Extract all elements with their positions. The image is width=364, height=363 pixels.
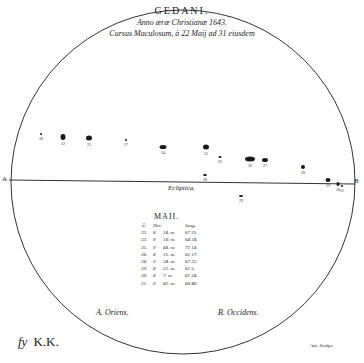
- sunspot: [86, 136, 92, 141]
- signature-initials: K.K.: [33, 334, 58, 349]
- sunspot-date-label: 28: [301, 170, 305, 175]
- sunspot-date-label: 31: [340, 188, 344, 193]
- table-row: 30.87. m.62 24.: [141, 272, 201, 279]
- sunspot-date-label: 27: [263, 163, 267, 168]
- cell: 65 17.: [185, 251, 201, 258]
- sunspot-labels: 282223272425262627282930282931: [39, 136, 344, 204]
- cell: 64 34.: [185, 236, 201, 243]
- cell: 24. m.: [163, 229, 185, 236]
- sunspot-date-label: 22: [61, 141, 65, 146]
- cell: 9: [153, 236, 163, 243]
- cell: 62 5.: [185, 265, 201, 272]
- sunspot: [61, 134, 66, 140]
- table-row: 29.822. m.62 5.: [141, 265, 201, 272]
- engraver-credit: Aut. Sculps.: [310, 343, 334, 348]
- cell: 26.: [141, 251, 153, 258]
- title-year: Anno æræ Christianæ 1643.: [0, 18, 364, 27]
- cell: 22. m.: [163, 265, 185, 272]
- column-header-minutes: [163, 222, 185, 229]
- cell: 9: [153, 244, 163, 251]
- sunspot: [219, 156, 222, 158]
- ecliptic-label: Ecliptica.: [168, 184, 195, 192]
- sunspot: [337, 182, 340, 186]
- cell: 15. m.: [163, 251, 185, 258]
- cell: 72 14.: [185, 244, 201, 251]
- title-course: Cursus Maculosum, à 22 Maij ad 31 eiusde…: [0, 29, 364, 38]
- cell: 10. m.: [163, 236, 185, 243]
- title-city: GEDANI.: [0, 5, 364, 16]
- cell: 8: [153, 229, 163, 236]
- sunspot-date-label: 29: [326, 183, 330, 188]
- sunspot: [245, 157, 255, 162]
- cell: 22.: [141, 229, 153, 236]
- sunspot: [239, 195, 243, 197]
- cell: 23.: [141, 236, 153, 243]
- column-header-hour: Hor.: [153, 222, 163, 229]
- sunspot: [301, 165, 305, 169]
- cell: 42. m.: [163, 280, 185, 287]
- table-row: 28.924. m.67 22.: [141, 258, 201, 265]
- cell: 9: [153, 258, 163, 265]
- legend-oriens: A. Oriens.: [96, 308, 129, 317]
- sunspot: [203, 145, 209, 150]
- sunspot-date-label: 25: [204, 151, 208, 156]
- cell: 30.: [141, 272, 153, 279]
- table-heading: MAII.: [154, 212, 179, 221]
- cell: 67 22.: [185, 258, 201, 265]
- sun-symbol-icon: ☉: [141, 222, 153, 229]
- sunspot-date-label: 28: [39, 136, 43, 141]
- sunspot-date-label: 27: [124, 142, 128, 147]
- solar-disc-diagram: 282223272425262627282930282931: [0, 0, 364, 363]
- cell: 67 25.: [185, 229, 201, 236]
- table-row: 26.815. m.65 17.: [141, 251, 201, 258]
- cell: 8: [153, 265, 163, 272]
- table-row: 31.942. m.60 40.: [141, 280, 201, 287]
- sunspot: [262, 158, 268, 162]
- sunspot-date-label: 26: [218, 159, 222, 164]
- cell: 24. m.: [163, 258, 185, 265]
- sunspot-date-label: 23: [87, 142, 91, 147]
- sunspot-date-label: 29: [239, 198, 243, 203]
- cell: 8: [153, 251, 163, 258]
- signature: fyK.K.: [18, 334, 59, 350]
- table-row: 25.944. m.72 14.: [141, 244, 201, 251]
- observation-table: ☉ Hor. Sexg. 22.824. m.67 25. 23.910. m.…: [141, 222, 201, 287]
- cell: 29.: [141, 265, 153, 272]
- sunspot: [326, 178, 331, 182]
- sunspot-date-label: 26: [248, 163, 252, 168]
- sunspot-date-label: 24: [161, 150, 165, 155]
- cell: 25.: [141, 244, 153, 251]
- column-header-sexg: Sexg.: [185, 222, 201, 229]
- cell: 62 24.: [185, 272, 201, 279]
- cell: 44. m.: [163, 244, 185, 251]
- table-row: 22.824. m.67 25.: [141, 229, 201, 236]
- signature-fy: fy: [18, 334, 27, 349]
- cell: 60 40.: [185, 280, 201, 287]
- cell: 7. m.: [163, 272, 185, 279]
- cell: 28.: [141, 258, 153, 265]
- cell: 8: [153, 272, 163, 279]
- cell: 9: [153, 280, 163, 287]
- sunspot: [203, 174, 207, 176]
- point-b-label: B: [354, 177, 359, 185]
- table-header-row: ☉ Hor. Sexg.: [141, 222, 201, 229]
- sunspot-date-label: 28: [203, 177, 207, 182]
- table-row: 23.910. m.64 34.: [141, 236, 201, 243]
- sunspot: [160, 145, 167, 149]
- legend-occidens: B. Occidens.: [218, 308, 259, 317]
- cell: 31.: [141, 280, 153, 287]
- point-a-label: A: [2, 175, 7, 183]
